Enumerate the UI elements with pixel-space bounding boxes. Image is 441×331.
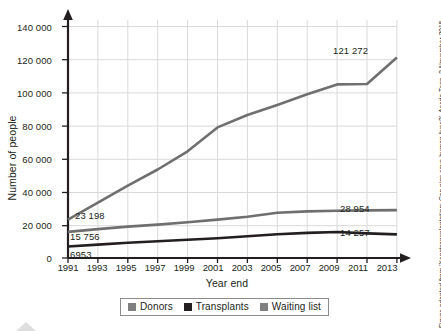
- data-label-transplants-end: 14 257: [340, 227, 370, 238]
- legend-label-transplants: Transplants: [196, 301, 249, 312]
- data-label-donors-end: 28 954: [340, 203, 370, 214]
- x-axis-line: [68, 253, 411, 263]
- horizontal-gridlines: [68, 27, 397, 226]
- legend-item-transplants[interactable]: Transplants: [184, 301, 249, 312]
- data-label-transplants-start: 6953: [70, 249, 92, 260]
- y-axis-line: [63, 9, 73, 258]
- data-label-waiting-end: 121 272: [333, 45, 368, 56]
- legend-item-waiting-list[interactable]: Waiting list: [260, 301, 321, 312]
- line-chart: Number of people Year end 140 000 120 00…: [0, 0, 400, 331]
- series-line-waiting-list: [68, 58, 397, 220]
- legend-swatch-donors-icon: [128, 303, 136, 311]
- legend-label-donors: Donors: [140, 301, 173, 312]
- attribution-block: Figure adapted from 'Xenotransplantation…: [405, 0, 439, 331]
- legend-swatch-transplants-icon: [184, 303, 192, 311]
- legend-item-donors[interactable]: Donors: [128, 301, 173, 312]
- chart-legend: Donors Transplants Waiting list: [120, 298, 329, 316]
- plot-svg: [0, 0, 441, 331]
- legend-swatch-waiting-list-icon: [260, 303, 268, 311]
- data-label-waiting-start: 23 198: [75, 210, 105, 221]
- corner-artifact: [0, 307, 58, 331]
- figure-container: Number of people Year end 140 000 120 00…: [0, 0, 441, 331]
- corner-artifact-shape: [16, 322, 36, 331]
- legend-label-waiting-list: Waiting list: [272, 301, 321, 312]
- data-label-donors-start: 15 756: [70, 231, 100, 242]
